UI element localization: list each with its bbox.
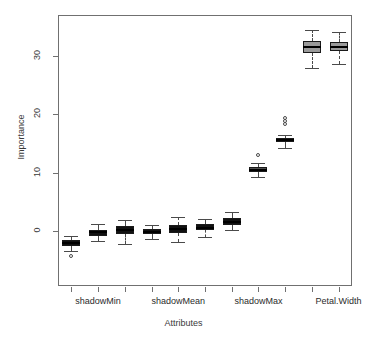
upper-whisker-cap <box>64 236 78 237</box>
clipped-title-text <box>8 0 228 3</box>
lower-whisker-cap <box>145 239 159 240</box>
x-tick-mark <box>258 287 259 292</box>
y-tick-mark <box>53 114 58 115</box>
y-tick-mark <box>53 231 58 232</box>
boxplot-figure: Importance Attributes 0102030 shadowMins… <box>0 0 367 339</box>
x-tick-label: shadowMax <box>218 296 298 306</box>
median-line <box>169 228 187 230</box>
x-tick-label: Petal.Width <box>299 296 367 306</box>
median-line <box>330 46 348 48</box>
upper-whisker-cap <box>145 225 159 226</box>
lower-whisker-cap <box>64 251 78 252</box>
lower-whisker-cap <box>225 230 239 231</box>
lower-whisker-line <box>125 234 127 244</box>
median-line <box>276 139 294 141</box>
lower-whisker-line <box>312 53 314 68</box>
x-tick-mark <box>232 287 233 292</box>
upper-whisker-cap <box>225 212 239 213</box>
y-tick-mark <box>53 56 58 57</box>
x-tick-label: shadowMin <box>58 296 138 306</box>
upper-whisker-cap <box>118 220 132 221</box>
lower-whisker-cap <box>332 64 346 65</box>
lower-whisker-line <box>205 230 207 238</box>
median-line <box>116 229 134 231</box>
x-tick-mark <box>152 287 153 292</box>
upper-whisker-cap <box>278 135 292 136</box>
lower-whisker-cap <box>305 68 319 69</box>
x-tick-mark <box>205 287 206 292</box>
lower-whisker-cap <box>198 237 212 238</box>
x-tick-mark <box>71 287 72 292</box>
lower-whisker-cap <box>278 148 292 149</box>
median-line <box>249 169 267 171</box>
median-line <box>89 231 107 233</box>
upper-whisker-cap <box>251 163 265 164</box>
median-line <box>196 227 214 229</box>
lower-whisker-cap <box>171 242 185 243</box>
lower-whisker-cap <box>91 241 105 242</box>
y-tick-label: 10 <box>32 161 42 183</box>
upper-whisker-cap <box>171 217 185 218</box>
x-tick-mark <box>339 287 340 292</box>
upper-whisker-line <box>178 217 180 225</box>
y-axis-title: Importance <box>16 92 26 182</box>
x-tick-mark <box>98 287 99 292</box>
median-line <box>143 231 161 233</box>
x-axis-title: Attributes <box>0 318 367 328</box>
y-tick-mark <box>53 173 58 174</box>
y-tick-label: 30 <box>32 44 42 66</box>
x-tick-mark <box>178 287 179 292</box>
plot-area <box>58 15 352 286</box>
median-line <box>62 242 80 244</box>
lower-whisker-cap <box>251 177 265 178</box>
x-tick-mark <box>125 287 126 292</box>
upper-whisker-cap <box>198 219 212 220</box>
lower-whisker-line <box>178 233 180 242</box>
upper-whisker-line <box>312 30 314 40</box>
median-line <box>223 221 241 223</box>
lower-whisker-line <box>339 51 341 64</box>
upper-whisker-line <box>339 32 341 42</box>
median-line <box>303 46 321 48</box>
upper-whisker-cap <box>305 30 319 31</box>
y-tick-label: 20 <box>32 102 42 124</box>
upper-whisker-cap <box>91 224 105 225</box>
y-tick-label: 0 <box>32 219 42 241</box>
upper-whisker-cap <box>332 32 346 33</box>
lower-whisker-cap <box>118 244 132 245</box>
x-tick-label: shadowMean <box>138 296 218 306</box>
x-tick-mark <box>312 287 313 292</box>
x-tick-mark <box>285 287 286 292</box>
